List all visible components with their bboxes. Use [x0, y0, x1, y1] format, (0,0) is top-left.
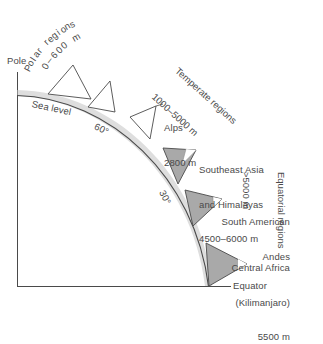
mountain-label-alps: Alps 2800 m: [164, 99, 196, 191]
mountain-polar-2: [88, 81, 115, 112]
mountain-label-alps-name: Alps: [164, 122, 196, 134]
axis-label-pole: Pole: [7, 55, 26, 67]
mountain-label-himalayas-name: Southeast Asia: [199, 164, 264, 176]
mountain-polar-1: [48, 65, 91, 99]
mountain-label-kilimanjaro-elevation: 5500 m: [178, 331, 290, 343]
mountain-label-kilimanjaro-name: Central Africa: [178, 262, 290, 274]
mountain-label-kilimanjaro-name2: (Kilimanjaro): [178, 297, 290, 309]
mountain-label-andes-name: South American: [180, 216, 290, 228]
mountain-label-alps-elevation: 2800 m: [164, 157, 196, 169]
mountain-label-kilimanjaro: Central Africa (Kilimanjaro) 5500 m: [178, 239, 290, 344]
axis-label-equator: Equator: [233, 280, 267, 292]
